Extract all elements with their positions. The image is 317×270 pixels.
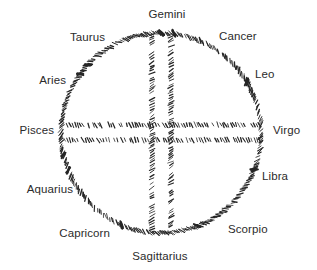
zodiac-label-gemini: Gemini bbox=[148, 8, 185, 21]
zodiac-label-aquarius: Aquarius bbox=[27, 183, 73, 196]
wheel-strokes bbox=[58, 30, 263, 236]
zodiac-label-aries: Aries bbox=[39, 74, 66, 87]
zodiac-wheel-diagram: Gemini Cancer Leo Virgo Libra Scorpio Sa… bbox=[0, 0, 317, 270]
zodiac-label-virgo: Virgo bbox=[273, 124, 300, 137]
zodiac-label-taurus: Taurus bbox=[70, 31, 105, 44]
zodiac-label-pisces: Pisces bbox=[20, 124, 54, 137]
zodiac-label-libra: Libra bbox=[262, 170, 288, 183]
zodiac-label-sagittarius: Sagittarius bbox=[132, 250, 187, 263]
zodiac-label-scorpio: Scorpio bbox=[228, 223, 268, 236]
zodiac-label-leo: Leo bbox=[255, 68, 275, 81]
zodiac-label-capricorn: Capricorn bbox=[59, 227, 110, 240]
zodiac-label-cancer: Cancer bbox=[219, 30, 257, 43]
